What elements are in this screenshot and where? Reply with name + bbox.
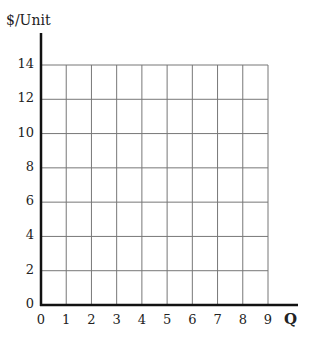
x-tick-label: 7 xyxy=(210,312,226,327)
x-tick-label: 1 xyxy=(58,312,74,327)
y-tick-label: 6 xyxy=(4,193,34,208)
x-tick-label: 9 xyxy=(260,312,276,327)
x-tick-label: 8 xyxy=(235,312,251,327)
y-tick-label: 10 xyxy=(4,125,34,140)
y-tick-label: 4 xyxy=(4,227,34,242)
y-tick-label: 8 xyxy=(4,159,34,174)
y-tick-label: 14 xyxy=(4,56,34,71)
x-tick-label: 4 xyxy=(134,312,150,327)
y-tick-label: 2 xyxy=(4,262,34,277)
x-tick-label: 0 xyxy=(33,312,49,327)
y-tick-label: 12 xyxy=(4,90,34,105)
x-tick-label: 6 xyxy=(184,312,200,327)
y-tick-label: 0 xyxy=(4,296,34,311)
x-tick-label: 5 xyxy=(159,312,175,327)
x-tick-label: 2 xyxy=(83,312,99,327)
x-tick-label: 3 xyxy=(109,312,125,327)
chart-grid xyxy=(0,0,313,348)
